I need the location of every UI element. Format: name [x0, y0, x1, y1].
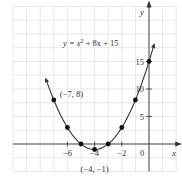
- curve-arrow-left-icon: [45, 77, 49, 82]
- data-point: [51, 98, 56, 103]
- parabola-chart: −6−4−2051015 (−7, 8)(−4, −1) x y y = x2 …: [0, 0, 182, 184]
- equation-rhs: + 8x + 15: [84, 38, 119, 48]
- data-point: [65, 125, 70, 130]
- data-point: [106, 142, 111, 147]
- data-point: [79, 142, 84, 147]
- data-points: [51, 59, 151, 152]
- point-annotation: (−4, −1): [81, 164, 109, 174]
- data-point: [119, 125, 124, 130]
- x-tick-label: −6: [63, 148, 72, 158]
- equation-lhs: y = x: [62, 38, 81, 48]
- x-axis-arrow-icon: [175, 142, 182, 147]
- x-axis-label: x: [171, 148, 176, 158]
- data-point: [92, 147, 97, 152]
- y-axis-arrow-icon: [147, 1, 152, 8]
- equation-label: y = x2 + 8x + 15: [62, 38, 119, 48]
- y-tick-label: 5: [140, 112, 144, 122]
- data-point: [147, 59, 152, 64]
- point-annotation: (−7, 8): [60, 89, 83, 99]
- y-axis-label: y: [139, 7, 144, 17]
- x-tick-label: 0: [140, 148, 144, 158]
- data-point: [133, 98, 138, 103]
- y-tick-label: 15: [136, 57, 145, 67]
- x-tick-label: −2: [117, 148, 126, 158]
